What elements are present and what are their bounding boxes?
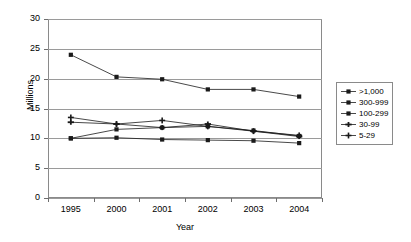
- data-point: [160, 77, 164, 81]
- legend-marker-icon: [340, 108, 357, 119]
- data-point: [68, 115, 74, 121]
- line-chart: 302520151050 Millions 199520002001200220…: [0, 0, 411, 242]
- series-line: [71, 122, 299, 136]
- data-point: [346, 89, 350, 93]
- x-tick-label: 2004: [277, 205, 321, 214]
- data-point: [69, 53, 73, 57]
- data-point: [251, 87, 255, 91]
- x-tick-mark: [231, 198, 232, 202]
- x-tick-label: 2003: [232, 205, 276, 214]
- data-point: [114, 136, 118, 140]
- data-point: [206, 87, 210, 91]
- legend-marker-icon: [340, 97, 357, 108]
- data-point: [297, 94, 301, 98]
- data-point: [114, 127, 118, 131]
- data-point: [297, 141, 301, 145]
- data-point: [345, 122, 351, 127]
- x-tick-label: 1995: [49, 205, 93, 214]
- y-tick-label: 30: [0, 14, 40, 23]
- x-tick-mark: [48, 198, 49, 202]
- x-tick-label: 2002: [186, 205, 230, 214]
- x-tick-mark: [276, 198, 277, 202]
- legend: >1,000300-999100-29930-995-29: [336, 82, 393, 145]
- y-axis-title: Millions: [25, 55, 35, 135]
- data-point: [206, 138, 210, 142]
- data-point: [69, 136, 73, 140]
- data-point: [160, 137, 164, 141]
- data-point: [159, 117, 165, 123]
- x-axis-title: Year: [48, 222, 322, 232]
- legend-item[interactable]: 5-29: [340, 130, 388, 141]
- legend-marker-icon: [340, 130, 357, 141]
- data-point: [251, 139, 255, 143]
- legend-item[interactable]: >1,000: [340, 86, 388, 97]
- legend-item[interactable]: 300-999: [340, 97, 388, 108]
- x-tick-label: 2001: [140, 205, 184, 214]
- x-tick-mark: [94, 198, 95, 202]
- x-tick-mark: [322, 198, 323, 202]
- legend-item-label: 300-999: [357, 97, 388, 108]
- x-tick-label: 2000: [95, 205, 139, 214]
- x-tick-mark: [139, 198, 140, 202]
- series-lines: [48, 19, 322, 198]
- data-point: [346, 100, 350, 104]
- data-point: [114, 75, 118, 79]
- legend-marker-icon: [340, 119, 357, 130]
- data-point: [159, 125, 165, 130]
- y-tick-label: 25: [0, 44, 40, 53]
- legend-marker-icon: [340, 86, 357, 97]
- legend-item[interactable]: 30-99: [340, 119, 388, 130]
- data-point: [346, 111, 350, 115]
- legend-item-label: 5-29: [357, 130, 375, 141]
- legend-item-label: 30-99: [357, 119, 379, 130]
- series-line: [71, 55, 299, 97]
- series-line: [71, 138, 299, 143]
- data-point: [68, 120, 74, 125]
- data-point: [346, 133, 352, 139]
- y-tick-label: 5: [0, 163, 40, 172]
- legend-item-label: 100-299: [357, 108, 388, 119]
- data-point: [114, 121, 120, 127]
- x-tick-mark: [185, 198, 186, 202]
- legend-item[interactable]: 100-299: [340, 108, 388, 119]
- y-tick-label: 0: [0, 193, 40, 202]
- legend-item-label: >1,000: [357, 86, 384, 97]
